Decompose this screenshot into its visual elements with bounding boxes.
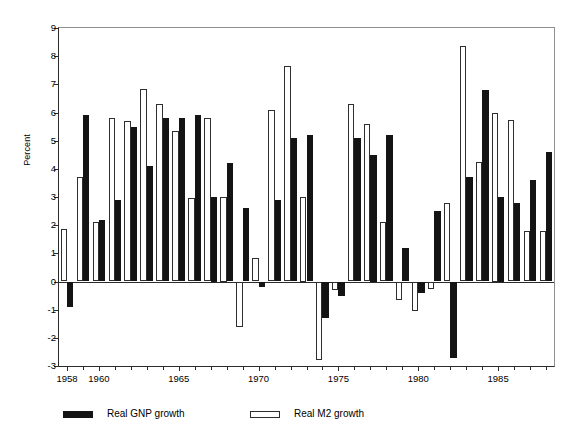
x-axis-tick-mark: [291, 366, 292, 370]
x-axis-tick-mark: [195, 366, 196, 370]
plot-area: 9876543210-1-2-3195819601965197019751980…: [58, 27, 555, 367]
bar: [482, 90, 488, 282]
legend-label: Real M2 growth: [294, 407, 364, 421]
bar: [450, 282, 456, 358]
x-axis-tick-mark: [450, 366, 451, 370]
x-axis-tick-mark: [482, 366, 483, 370]
x-axis-tick-label: 1970: [248, 373, 269, 385]
x-axis-tick-mark: [354, 366, 355, 370]
bar: [61, 229, 67, 281]
bar: [236, 282, 242, 327]
bar: [131, 127, 137, 282]
y-axis-tick-label: 8: [34, 49, 56, 62]
bar: [252, 258, 258, 282]
x-axis-tick-label: 1975: [328, 373, 349, 385]
bar: [115, 200, 121, 282]
x-axis-tick-mark: [275, 366, 276, 370]
bar: [444, 203, 450, 282]
x-axis-tick-mark: [322, 366, 323, 370]
x-axis-tick-label: 1960: [88, 373, 109, 385]
x-axis-tick-mark: [514, 366, 515, 370]
legend-entry: Real GNP growth: [63, 406, 185, 422]
bar: [514, 203, 520, 282]
y-axis-label: Percent: [20, 110, 34, 190]
x-axis-tick-mark: [370, 366, 371, 370]
x-axis-tick-mark: [530, 366, 531, 370]
x-axis-tick-mark: [211, 366, 212, 370]
x-axis-tick-mark: [115, 366, 116, 370]
bar: [418, 282, 424, 293]
y-axis-tick-label: 1: [34, 246, 56, 259]
y-axis-tick-label: 4: [34, 162, 56, 175]
x-axis-tick-mark: [147, 366, 148, 370]
bars-container: [59, 28, 554, 366]
bar: [291, 138, 297, 282]
x-axis-tick-mark: [466, 366, 467, 370]
legend-swatch-m2: [250, 411, 280, 418]
bar: [386, 135, 392, 281]
chart-figure: Percent 9876543210-1-2-31958196019651970…: [0, 0, 569, 442]
x-axis-tick-mark: [243, 366, 244, 370]
bar: [67, 282, 73, 307]
x-axis-tick-mark: [163, 366, 164, 370]
bar: [195, 115, 201, 281]
y-axis-tick-label: -3: [34, 359, 56, 372]
x-axis-tick-mark: [546, 366, 547, 370]
legend-label: Real GNP growth: [107, 407, 185, 421]
bar: [396, 282, 402, 300]
bar: [546, 152, 552, 282]
x-axis-tick-mark: [498, 366, 499, 371]
bar: [307, 135, 313, 281]
y-axis-tick-label: -1: [34, 303, 56, 316]
x-axis-tick-label: 1985: [488, 373, 509, 385]
bar: [99, 220, 105, 282]
x-axis-tick-mark: [83, 366, 84, 370]
y-axis-tick-label: 2: [34, 218, 56, 231]
bar: [275, 200, 281, 282]
bar: [179, 118, 185, 281]
x-axis-tick-mark: [307, 366, 308, 370]
x-axis-tick-label: 1958: [56, 373, 77, 385]
bar: [498, 197, 504, 282]
bar: [227, 163, 233, 281]
bar: [211, 197, 217, 282]
chart-legend: Real GNP growthReal M2 growth: [58, 406, 518, 430]
bar: [354, 138, 360, 282]
y-axis-tick-label: 9: [34, 21, 56, 34]
bar: [370, 155, 376, 282]
bar: [466, 177, 472, 281]
bar: [83, 115, 89, 281]
x-axis-tick-mark: [131, 366, 132, 370]
x-axis-tick-mark: [434, 366, 435, 370]
bar: [243, 208, 249, 281]
x-axis-tick-mark: [227, 366, 228, 370]
bar: [259, 282, 265, 288]
bar: [428, 282, 434, 289]
bar: [530, 180, 536, 281]
legend-entry: Real M2 growth: [250, 406, 364, 422]
x-axis-tick-mark: [402, 366, 403, 370]
y-axis-tick-label: 0: [34, 275, 56, 288]
legend-swatch-gnp: [63, 411, 93, 418]
x-axis-tick-mark: [67, 366, 68, 371]
bar: [338, 282, 344, 296]
y-axis-tick-label: 3: [34, 190, 56, 203]
bar: [163, 118, 169, 281]
x-axis-tick-label: 1980: [408, 373, 429, 385]
bar: [434, 211, 440, 281]
x-axis-tick-label: 1965: [168, 373, 189, 385]
bar: [147, 166, 153, 281]
bar: [322, 282, 328, 319]
y-axis-tick-label: 5: [34, 134, 56, 147]
y-axis-tick-label: -2: [34, 331, 56, 344]
y-axis-tick-label: 7: [34, 77, 56, 90]
y-axis-tick-label: 6: [34, 106, 56, 119]
x-axis-tick-mark: [99, 366, 100, 371]
x-axis-tick-mark: [386, 366, 387, 370]
x-axis-tick-mark: [338, 366, 339, 371]
x-axis-tick-mark: [259, 366, 260, 371]
bar: [402, 248, 408, 282]
x-axis-tick-mark: [179, 366, 180, 371]
x-axis-tick-mark: [418, 366, 419, 371]
